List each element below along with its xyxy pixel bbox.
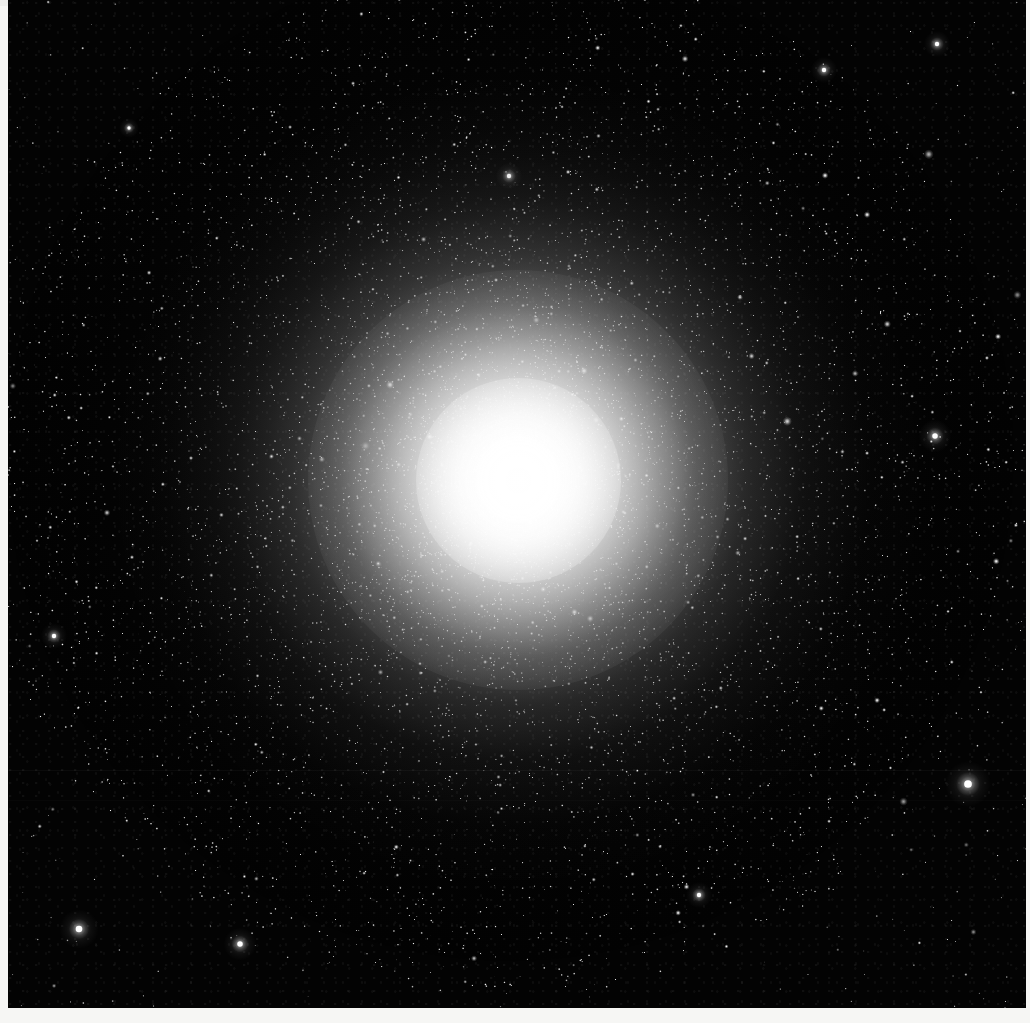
plate-border-left <box>0 6 8 1023</box>
sky-field <box>8 0 1026 1008</box>
plate-border-bottom <box>0 1008 1030 1023</box>
plate-border-right <box>1026 0 1030 1012</box>
photographic-plate <box>0 0 1030 1023</box>
cluster-star-layer <box>8 0 1026 1008</box>
